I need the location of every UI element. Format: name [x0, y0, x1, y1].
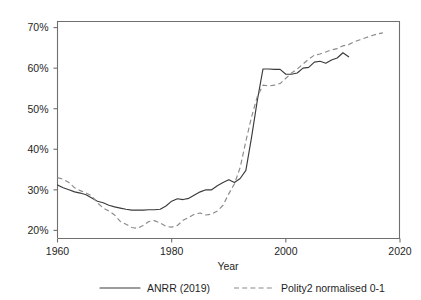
- y-tick-label: 60%: [27, 62, 48, 74]
- x-tick-label: 2020: [388, 245, 412, 257]
- legend-label-anrr: ANRR (2019): [147, 282, 210, 294]
- y-axis: 20%30%40%50%60%70%: [27, 21, 57, 238]
- y-tick-label: 30%: [27, 184, 48, 196]
- x-axis: 1960198020002020: [46, 239, 412, 257]
- y-tick-label: 40%: [27, 143, 48, 155]
- series-group: [58, 33, 383, 229]
- y-tick-label: 50%: [27, 103, 48, 115]
- series-line-solid: [58, 53, 349, 210]
- y-tick-label: 70%: [27, 21, 48, 33]
- y-tick-group: 20%30%40%50%60%70%: [27, 21, 57, 236]
- legend-label-polity2: Polity2 normalised 0-1: [281, 282, 385, 294]
- legend: ANRR (2019) Polity2 normalised 0-1: [100, 282, 385, 294]
- y-tick-label: 20%: [27, 224, 48, 236]
- x-tick-label: 1960: [46, 245, 70, 257]
- x-axis-title: Year: [217, 260, 239, 272]
- chart-figure: 20%30%40%50%60%70% 1960198020002020 Year…: [0, 0, 421, 300]
- x-tick-label: 1980: [160, 245, 184, 257]
- x-tick-group: 1960198020002020: [46, 239, 412, 257]
- line-chart: 20%30%40%50%60%70% 1960198020002020 Year…: [0, 0, 421, 300]
- series-line-dashed: [58, 33, 383, 229]
- x-tick-label: 2000: [274, 245, 298, 257]
